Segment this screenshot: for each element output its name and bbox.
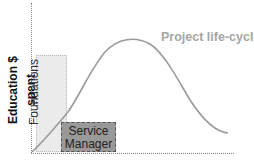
curve-label: Project life-cycle [161,30,254,44]
lifecycle-curve [0,0,254,160]
